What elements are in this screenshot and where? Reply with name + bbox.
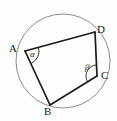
geometry-figure: A B C D α β [0, 0, 117, 121]
vertex-label-a: A [9, 43, 17, 54]
vertex-label-d: D [97, 24, 105, 35]
segment-cb [50, 76, 97, 105]
segment-ba [25, 51, 50, 105]
geometry-canvas [0, 0, 117, 121]
angle-label-alpha: α [30, 50, 35, 59]
vertex-label-c: C [101, 70, 108, 81]
segment-ad [25, 32, 95, 51]
vertex-label-b: B [44, 106, 51, 117]
segment-dc [95, 32, 97, 76]
angle-label-beta: β [85, 63, 89, 72]
